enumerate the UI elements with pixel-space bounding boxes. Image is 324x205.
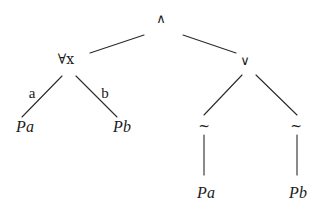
edge-label-a: a <box>29 86 36 101</box>
edge-or-neg_right <box>256 75 297 115</box>
edge-label-b: b <box>101 86 109 101</box>
tree-diagram: ∧ ∀x ∨ Pa Pb ~ ~ Pa Pb a b <box>0 0 324 205</box>
node-negation-right: ~ <box>290 119 302 133</box>
node-disjunction: ∨ <box>240 54 250 67</box>
node-leaf-pb-left: Pb <box>113 119 131 135</box>
node-leaf-pb-right: Pb <box>289 185 307 201</box>
edge-root-or <box>183 35 236 53</box>
node-conjunction: ∧ <box>156 12 166 25</box>
node-leaf-pa-left: Pa <box>16 119 34 135</box>
edge-or-neg_left <box>204 75 242 115</box>
tree-edges <box>0 0 324 205</box>
node-negation-left: ~ <box>198 119 210 133</box>
edge-forall-forall_pb <box>76 76 117 117</box>
node-leaf-pa-right: Pa <box>197 185 215 201</box>
edge-root-forall <box>90 35 144 53</box>
node-universal-quantifier: ∀x <box>58 52 74 66</box>
